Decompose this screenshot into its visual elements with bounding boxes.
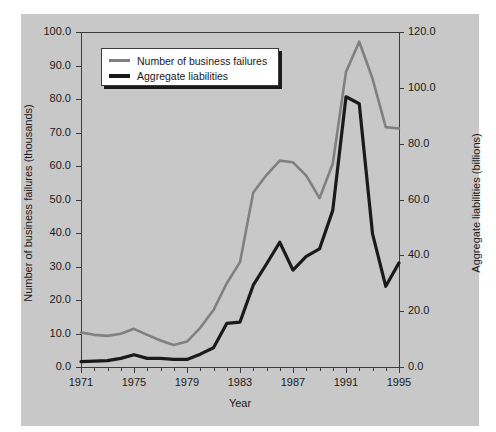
y-tick-label-right: 100.0 <box>408 81 454 93</box>
x-tick-label: 1971 <box>56 376 106 388</box>
legend-swatch-failures-icon <box>109 59 130 62</box>
legend-item-failures: Number of business failures <box>109 53 271 68</box>
y-tick-label-left: 100.0 <box>25 25 71 37</box>
legend-label-liabilities: Aggregate liabilities <box>137 70 228 82</box>
y-tick-label-right: 40.0 <box>408 248 454 260</box>
x-tick-label: 1975 <box>109 376 159 388</box>
y-tick-label-right: 120.0 <box>408 25 454 37</box>
x-tick-label: 1991 <box>321 376 371 388</box>
y-tick-label-left: 20.0 <box>25 293 71 305</box>
y-tick-label-left: 40.0 <box>25 226 71 238</box>
figure: Number of business failures (thousands) … <box>0 0 496 432</box>
x-tick-label: 1995 <box>374 376 424 388</box>
y-tick-label-right: 20.0 <box>408 304 454 316</box>
chart-legend: Number of business failures Aggregate li… <box>101 48 279 86</box>
y-tick-label-left: 70.0 <box>25 126 71 138</box>
y-tick-label-left: 50.0 <box>25 193 71 205</box>
y-tick-label-left: 80.0 <box>25 92 71 104</box>
y-tick-label-left: 10.0 <box>25 327 71 339</box>
x-tick-label: 1987 <box>268 376 318 388</box>
y-axis-right-title: Aggregate liabilities (billions) <box>470 83 482 323</box>
x-tick-label: 1983 <box>215 376 265 388</box>
legend-label-failures: Number of business failures <box>137 55 267 67</box>
legend-swatch-liabilities-icon <box>109 74 130 78</box>
y-tick-label-left: 0.0 <box>25 360 71 372</box>
y-tick-label-left: 60.0 <box>25 159 71 171</box>
y-tick-label-right: 60.0 <box>408 193 454 205</box>
y-tick-label-left: 30.0 <box>25 260 71 272</box>
y-tick-label-left: 90.0 <box>25 59 71 71</box>
y-tick-label-right: 0.0 <box>408 360 454 372</box>
y-tick-label-right: 80.0 <box>408 137 454 149</box>
x-tick-label: 1979 <box>162 376 212 388</box>
legend-item-liabilities: Aggregate liabilities <box>109 68 271 83</box>
x-axis-title: Year <box>81 397 399 409</box>
